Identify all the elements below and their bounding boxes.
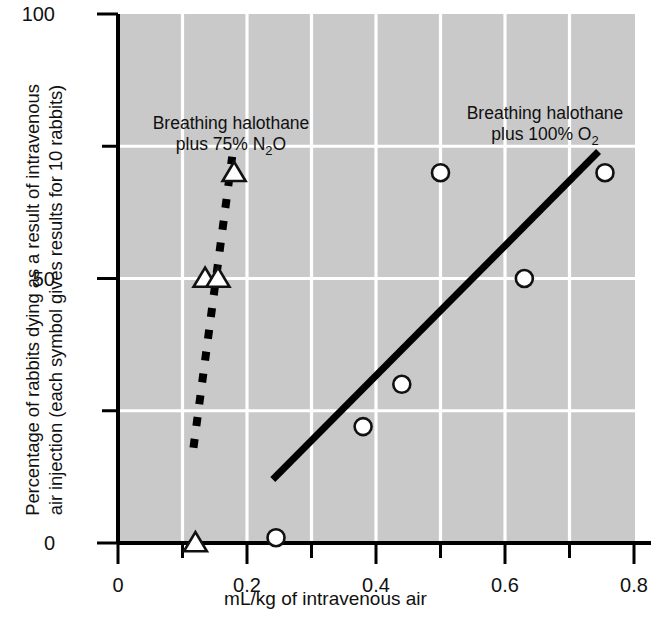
circle-marker bbox=[516, 270, 533, 287]
circle-marker bbox=[596, 164, 613, 181]
annotation-right-line1: Breathing halothane bbox=[467, 103, 624, 123]
annotation-left-line1: Breathing halothane bbox=[153, 113, 310, 133]
circle-marker bbox=[268, 529, 285, 546]
y-axis-ticks bbox=[97, 14, 118, 543]
circle-marker bbox=[432, 164, 449, 181]
circle-marker bbox=[355, 418, 372, 435]
annotation-left: Breathing halothane plus 75% N2O bbox=[153, 113, 310, 158]
plot-svg: Breathing halothane plus 75% N2O Breathi… bbox=[0, 0, 651, 618]
circle-marker bbox=[393, 376, 410, 393]
figure-container: Percentage of rabbits dying as a result … bbox=[0, 0, 651, 618]
